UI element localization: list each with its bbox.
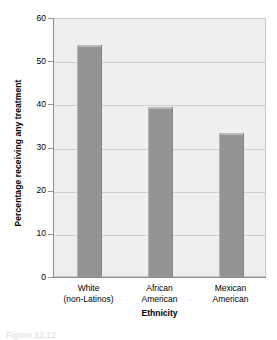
- y-tick-label-50: 50: [0, 57, 46, 66]
- plot-area: [53, 18, 266, 277]
- figure-caption: Figure 12.12: [6, 330, 56, 340]
- bar-2: [219, 133, 244, 277]
- y-tick-label-0: 0: [0, 273, 46, 282]
- bar-0: [77, 45, 102, 277]
- y-tick-label-40: 40: [0, 100, 46, 109]
- bar-1: [148, 107, 173, 277]
- x-tick-label-0-line1: White: [78, 283, 100, 293]
- y-tick-label-30: 30: [0, 143, 46, 152]
- x-tick-label-2-line1: Mexican: [215, 283, 247, 293]
- x-tick-label-1-line1: African: [146, 283, 172, 293]
- x-tick-label-2: MexicanAmerican: [185, 283, 277, 304]
- y-tick-label-60: 60: [0, 14, 46, 23]
- x-tick-label-2-line2: American: [185, 294, 277, 305]
- y-tick-label-20: 20: [0, 186, 46, 195]
- x-axis-title: Ethnicity: [53, 308, 266, 318]
- y-axis-line: [53, 18, 54, 278]
- figure-bar-chart: Percentage receiving any treatment 01020…: [0, 0, 276, 340]
- x-axis-line: [53, 277, 266, 278]
- y-tick-label-10: 10: [0, 229, 46, 238]
